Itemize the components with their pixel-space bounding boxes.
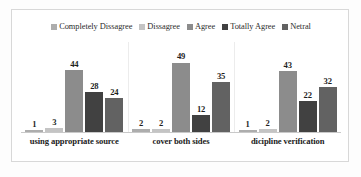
bar-slot: 2 xyxy=(132,42,150,132)
bar-slot: 22 xyxy=(299,42,317,132)
bar-slot: 43 xyxy=(279,42,297,132)
bar-slot: 35 xyxy=(212,42,230,132)
x-axis-baseline xyxy=(21,132,341,133)
bar-group: 22491235 xyxy=(128,42,235,132)
legend-item[interactable]: Completely Dissagree xyxy=(51,23,132,31)
bar-slot: 2 xyxy=(259,42,277,132)
legend-item-label: Netral xyxy=(290,23,311,31)
bar[interactable] xyxy=(65,70,83,132)
bar[interactable] xyxy=(172,63,190,132)
bar-slot: 1 xyxy=(25,42,43,132)
chart-frame: Completely DissagreeDissagreeAgreeTotall… xyxy=(11,9,349,162)
category-label: cover both sides xyxy=(128,136,235,147)
bar-slot: 32 xyxy=(319,42,337,132)
bar-slot: 3 xyxy=(45,42,63,132)
legend-swatch-icon xyxy=(282,24,288,30)
bar-chart-figure: Completely DissagreeDissagreeAgreeTotall… xyxy=(0,0,361,177)
bar-value-label: 28 xyxy=(90,82,98,91)
legend-swatch-icon xyxy=(222,24,228,30)
legend-swatch-icon xyxy=(139,24,145,30)
legend-item-label: Totally Agree xyxy=(230,23,275,31)
bar-value-label: 35 xyxy=(217,72,225,81)
bar-value-label: 1 xyxy=(32,120,36,129)
bar-slot: 12 xyxy=(192,42,210,132)
bar-value-label: 1 xyxy=(246,120,250,129)
legend-swatch-icon xyxy=(51,24,57,30)
group-separator xyxy=(128,42,129,132)
bar-value-label: 32 xyxy=(324,77,332,86)
bar-slot: 24 xyxy=(105,42,123,132)
legend-item-label: Dissagree xyxy=(147,23,180,31)
bar-value-label: 2 xyxy=(139,119,143,128)
bar-value-label: 49 xyxy=(177,52,185,61)
bar-value-label: 43 xyxy=(284,61,292,70)
legend-item-label: Completely Dissagree xyxy=(59,23,132,31)
legend-item[interactable]: Netral xyxy=(282,23,311,31)
category-label: dicipline verification xyxy=(234,136,341,147)
bar-group: 13442824 xyxy=(21,42,128,132)
legend-swatch-icon xyxy=(187,24,193,30)
category-label: using appropriate source xyxy=(21,136,128,147)
legend-item[interactable]: Totally Agree xyxy=(222,23,275,31)
bar-value-label: 3 xyxy=(52,118,56,127)
bar[interactable] xyxy=(85,92,103,132)
legend-item[interactable]: Dissagree xyxy=(139,23,180,31)
bar-group: 12432232 xyxy=(234,42,341,132)
bar-value-label: 22 xyxy=(304,91,312,100)
chart-legend: Completely DissagreeDissagreeAgreeTotall… xyxy=(12,23,350,31)
bar-slot: 49 xyxy=(172,42,190,132)
bar-slot: 44 xyxy=(65,42,83,132)
legend-item-label: Agree xyxy=(195,23,215,31)
bar[interactable] xyxy=(192,115,210,132)
bar-slot: 2 xyxy=(152,42,170,132)
bar-groups: 134428242249123512432232 xyxy=(21,42,341,132)
bar-value-label: 2 xyxy=(159,119,163,128)
group-separator xyxy=(234,42,235,132)
bar[interactable] xyxy=(319,87,337,132)
bar-slot: 28 xyxy=(85,42,103,132)
bar-value-label: 44 xyxy=(70,60,78,69)
bar[interactable] xyxy=(299,101,317,132)
bar-value-label: 2 xyxy=(266,119,270,128)
bar[interactable] xyxy=(212,82,230,132)
bar[interactable] xyxy=(279,71,297,132)
bar-value-label: 24 xyxy=(110,88,118,97)
category-axis-labels: using appropriate sourcecover both sides… xyxy=(21,136,341,147)
bar-slot: 1 xyxy=(239,42,257,132)
bar-value-label: 12 xyxy=(197,105,205,114)
plot-area: 134428242249123512432232 xyxy=(21,42,341,132)
bar[interactable] xyxy=(105,98,123,132)
legend-item[interactable]: Agree xyxy=(187,23,215,31)
